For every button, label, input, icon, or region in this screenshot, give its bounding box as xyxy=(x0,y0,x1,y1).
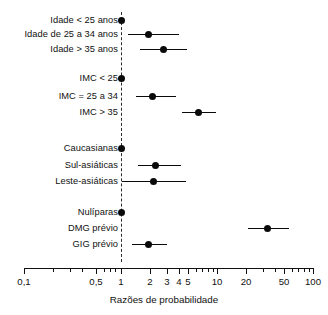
x-axis-tick-3 xyxy=(167,268,168,274)
x-axis-minor-tick-6 xyxy=(196,268,197,272)
x-axis-minor-tick-12 xyxy=(292,268,293,272)
row-label-gig-previo: GIG prévio xyxy=(73,239,118,249)
row-label-idade-maior-35: Idade > 35 anos xyxy=(50,44,118,54)
x-axis-tick-label-100: 100 xyxy=(293,276,328,287)
row-label-imc-25-34: IMC = 25 a 34 xyxy=(59,91,118,101)
row-label-sul-asiaticas: Sul-asiáticas xyxy=(65,160,118,170)
row-label-idade-25-34: Idade de 25 a 34 anos xyxy=(24,29,118,39)
x-axis-tick-label-20: 20 xyxy=(226,276,266,287)
point-estimate-imc-menor-25 xyxy=(118,75,125,82)
x-axis-minor-tick-2 xyxy=(82,268,83,272)
x-axis-tick-10 xyxy=(217,268,218,274)
point-estimate-imc-25-34 xyxy=(149,93,156,100)
x-axis-title: Razões de probabilidade xyxy=(0,294,328,305)
x-axis-minor-tick-15 xyxy=(309,268,310,272)
x-axis-tick-50 xyxy=(284,268,285,274)
point-estimate-nuliparas xyxy=(118,209,125,216)
point-estimate-imc-maior-35 xyxy=(195,109,202,116)
x-axis-minor-tick-10 xyxy=(263,268,264,272)
x-axis-minor-tick-3 xyxy=(104,268,105,272)
row-label-idade-menor-25: Idade < 25 anos xyxy=(50,15,118,25)
confidence-interval-sul-asiaticas xyxy=(138,165,181,166)
row-label-leste-asiaticas: Leste-asiáticas xyxy=(55,176,118,186)
x-axis-minor-tick-11 xyxy=(275,268,276,272)
x-axis-tick-label-0-1: 0,1 xyxy=(4,276,44,287)
x-axis-tick-2 xyxy=(150,268,151,274)
point-estimate-idade-maior-35 xyxy=(160,46,167,53)
point-estimate-caucasianas xyxy=(118,145,125,152)
confidence-interval-idade-25-34 xyxy=(128,34,179,35)
point-estimate-leste-asiaticas xyxy=(150,178,157,185)
x-axis-tick-4 xyxy=(179,268,180,274)
x-axis-tick-100 xyxy=(313,268,314,274)
reference-line-or-1 xyxy=(121,12,122,262)
x-axis-minor-tick-13 xyxy=(298,268,299,272)
point-estimate-dmg-previo xyxy=(264,225,271,232)
confidence-interval-imc-25-34 xyxy=(136,96,176,97)
x-axis-minor-tick-9 xyxy=(213,268,214,272)
point-estimate-sul-asiaticas xyxy=(152,162,159,169)
x-axis-minor-tick-1 xyxy=(70,268,71,272)
x-axis-line xyxy=(24,268,313,269)
x-axis-minor-tick-7 xyxy=(202,268,203,272)
x-axis-tick-0-1 xyxy=(24,268,25,274)
x-axis-minor-tick-4 xyxy=(110,268,111,272)
x-axis-minor-tick-14 xyxy=(304,268,305,272)
row-label-caucasianas: Caucasianas xyxy=(64,143,118,153)
point-estimate-idade-25-34 xyxy=(145,31,152,38)
x-axis-tick-20 xyxy=(246,268,247,274)
point-estimate-gig-previo xyxy=(145,241,152,248)
row-label-imc-menor-25: IMC < 25 xyxy=(80,73,118,83)
x-axis-tick-5 xyxy=(188,268,189,274)
row-label-nuliparas: Nulíparas xyxy=(78,207,118,217)
x-axis-minor-tick-0 xyxy=(53,268,54,272)
x-axis-tick-0-5 xyxy=(96,268,97,274)
x-axis-minor-tick-5 xyxy=(115,268,116,272)
x-axis-minor-tick-8 xyxy=(208,268,209,272)
row-label-dmg-previo: DMG prévio xyxy=(68,223,118,233)
x-axis-tick-1 xyxy=(121,268,122,274)
row-label-imc-maior-35: IMC > 35 xyxy=(80,107,118,117)
point-estimate-idade-menor-25 xyxy=(118,17,125,24)
forest-plot: Idade < 25 anosIdade de 25 a 34 anosIdad… xyxy=(0,0,328,315)
